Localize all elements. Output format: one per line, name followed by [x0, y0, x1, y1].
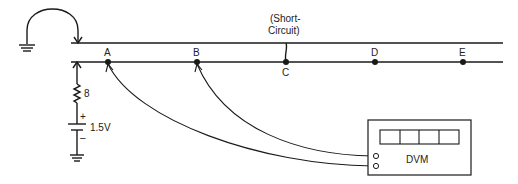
short-circuit-label-2: Circuit) [268, 25, 300, 36]
circuit-diagram: (Short- Circuit) A B C D E 8 + 1.5V – [0, 0, 518, 184]
node-d: D [371, 47, 378, 65]
node-e: E [459, 47, 466, 65]
dvm-terminal-2 [373, 163, 378, 168]
node-c: C [282, 59, 289, 78]
battery-label: 1.5V [90, 122, 111, 133]
resistor-icon [74, 84, 80, 103]
resistor-label: 8 [84, 88, 90, 99]
node-b: B [193, 47, 200, 65]
dvm-meter: DVM [368, 120, 471, 175]
node-a: A [104, 47, 111, 65]
ground-icon [19, 45, 35, 51]
svg-text:D: D [371, 47, 378, 58]
dvm-label: DVM [406, 154, 428, 165]
source-branch: 8 + 1.5V – [68, 62, 111, 161]
ground-icon [70, 155, 84, 161]
test-lead-a [106, 64, 373, 166]
battery-icon [68, 124, 86, 130]
short-circuit-label: (Short- [270, 13, 301, 24]
svg-text:A: A [104, 47, 111, 58]
battery-plus: + [80, 111, 86, 122]
svg-text:C: C [282, 67, 289, 78]
battery-minus: – [80, 132, 86, 143]
svg-text:B: B [193, 47, 200, 58]
svg-text:E: E [459, 47, 466, 58]
dvm-terminal-1 [373, 153, 378, 158]
left-ground-jumper [19, 9, 82, 51]
